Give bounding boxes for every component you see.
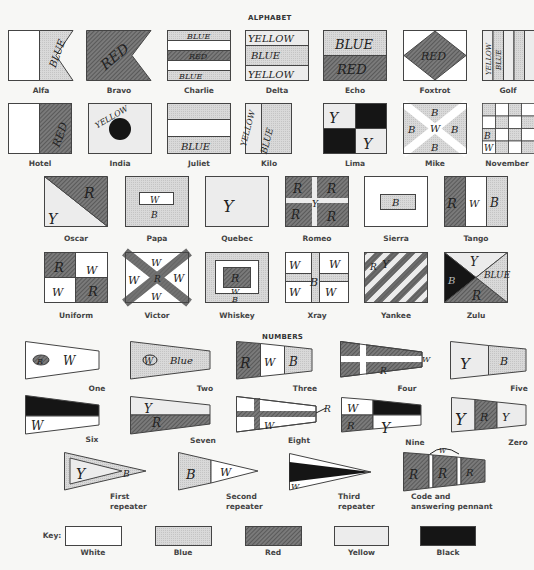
key-label-blue: Blue: [155, 548, 211, 558]
svg-text:Y: Y: [312, 199, 319, 209]
svg-text:W: W: [220, 466, 233, 479]
flag-papa: W B: [125, 176, 189, 232]
svg-text:B: B: [231, 295, 238, 304]
alphabet-heading: ALPHABET: [248, 14, 292, 22]
svg-text:BLUE: BLUE: [483, 270, 511, 280]
svg-text:Y: Y: [223, 197, 235, 216]
pennant-nine: W R Y: [341, 397, 423, 443]
label-hotel: Hotel: [8, 159, 72, 169]
label-five: Five: [506, 384, 532, 394]
svg-text:W: W: [264, 356, 277, 369]
svg-text:W: W: [128, 274, 141, 287]
flag-delta: YELLOW BLUE YELLOW: [245, 30, 309, 86]
svg-text:B: B: [430, 107, 438, 118]
svg-text:BLUE: BLUE: [250, 50, 281, 61]
svg-text:W: W: [52, 286, 65, 299]
svg-text:RED: RED: [336, 62, 367, 77]
svg-text:R: R: [446, 196, 457, 211]
svg-text:B: B: [489, 196, 499, 210]
label-charlie: Charlie: [167, 86, 231, 96]
svg-text:R: R: [465, 467, 474, 478]
svg-text:Blue: Blue: [169, 355, 193, 366]
svg-text:R: R: [323, 404, 331, 414]
svg-text:W: W: [151, 291, 162, 302]
svg-text:W: W: [469, 198, 480, 209]
svg-text:W: W: [430, 123, 441, 134]
label-echo: Echo: [323, 86, 387, 96]
svg-text:Y: Y: [144, 402, 153, 416]
label-code-and-answering: Code and answering pennant: [411, 492, 521, 512]
svg-text:R: R: [292, 182, 302, 196]
svg-text:W: W: [422, 355, 431, 364]
label-oscar: Oscar: [44, 234, 108, 244]
label-six: Six: [80, 435, 104, 445]
flag-uniform: R W W R: [44, 252, 108, 308]
svg-text:W: W: [151, 257, 162, 268]
svg-text:W: W: [325, 286, 338, 299]
svg-text:R: R: [87, 284, 98, 299]
flag-november: B W: [482, 103, 534, 159]
flag-golf: YELLOW BLUE: [482, 30, 534, 86]
label-seven: Seven: [186, 436, 220, 446]
flag-charlie: BLUE RED BLUE: [167, 30, 231, 86]
label-kilo: Kilo: [245, 159, 293, 169]
flag-juliet: BLUE: [167, 103, 231, 159]
pennant-five: Y B: [450, 341, 530, 385]
svg-text:BLUE: BLUE: [495, 50, 503, 71]
svg-text:YELLOW: YELLOW: [248, 33, 294, 44]
svg-text:YELLOW: YELLOW: [485, 42, 493, 75]
svg-text:R: R: [53, 260, 64, 275]
svg-text:W: W: [31, 419, 45, 433]
svg-text:B: B: [447, 275, 455, 286]
svg-text:W: W: [329, 258, 342, 271]
label-alfa: Alfa: [8, 86, 74, 96]
label-quebec: Quebec: [205, 234, 269, 244]
flag-oscar: R Y: [44, 176, 108, 232]
key-label: Key:: [42, 531, 62, 541]
svg-text:B: B: [430, 142, 438, 153]
label-tango: Tango: [444, 234, 508, 244]
svg-text:B: B: [150, 210, 158, 220]
label-one: One: [82, 384, 112, 394]
svg-text:R: R: [437, 467, 447, 481]
flag-xray: W W B W W: [285, 252, 349, 308]
svg-text:R: R: [379, 366, 387, 376]
label-eight: Eight: [284, 436, 314, 446]
svg-text:B: B: [185, 467, 196, 482]
svg-text:W: W: [144, 356, 154, 366]
flag-bravo: RED: [86, 30, 152, 86]
numbers-heading: NUMBERS: [262, 333, 303, 341]
label-november: November: [480, 159, 534, 169]
flag-hotel: RED: [8, 103, 72, 159]
label-yankee: Yankee: [364, 311, 428, 321]
svg-text:W: W: [291, 482, 300, 491]
flag-whiskey: R W B: [205, 252, 269, 308]
svg-text:B: B: [288, 355, 298, 369]
label-two: Two: [190, 384, 220, 394]
svg-text:W: W: [289, 286, 302, 299]
svg-text:R: R: [151, 416, 161, 430]
svg-text:W: W: [173, 272, 186, 285]
flag-echo: BLUE RED: [323, 30, 387, 86]
flag-romeo: R R Y R R: [285, 176, 349, 232]
label-xray: Xray: [285, 311, 349, 321]
label-uniform: Uniform: [44, 311, 108, 321]
label-lima: Lima: [323, 159, 387, 169]
svg-text:W: W: [86, 264, 99, 277]
svg-text:R: R: [326, 210, 336, 224]
svg-text:B: B: [309, 276, 318, 289]
svg-text:RED: RED: [420, 50, 446, 63]
flag-foxtrot: RED: [403, 30, 467, 86]
key-label-white: White: [65, 548, 121, 558]
label-juliet: Juliet: [167, 159, 231, 169]
svg-text:RED: RED: [188, 52, 208, 61]
pennant-zero: Y R Y: [451, 397, 531, 443]
svg-text:BLUE: BLUE: [180, 141, 211, 152]
label-zero: Zero: [504, 438, 532, 448]
svg-text:R: R: [36, 357, 43, 366]
label-india: India: [88, 159, 152, 169]
label-papa: Papa: [125, 234, 189, 244]
label-golf: Golf: [482, 86, 534, 96]
svg-text:W: W: [439, 447, 447, 455]
svg-text:B: B: [391, 197, 399, 208]
